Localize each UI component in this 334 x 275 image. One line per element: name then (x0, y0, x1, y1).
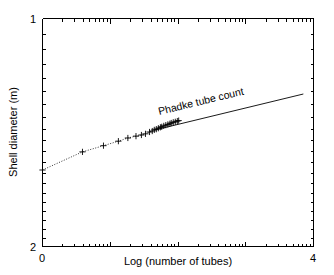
chart-canvas: Phadke tube count 1 2 0 4 Log (number of… (0, 0, 334, 275)
y-axis-bottom-tick-label: 2 (30, 241, 36, 253)
x-axis-ticks (43, 19, 314, 247)
y-axis-title: Shell diameter (m) (7, 87, 19, 177)
y-axis-ticks (43, 19, 314, 247)
series-annotation-label: Phadke tube count (157, 85, 245, 117)
y-axis-top-tick-label: 1 (30, 13, 36, 25)
plot-frame (43, 19, 314, 247)
x-axis-right-tick-label: 4 (310, 252, 316, 264)
x-axis-left-tick-label: 0 (39, 252, 45, 264)
chart-figure: Phadke tube count 1 2 0 4 Log (number of… (0, 0, 334, 275)
data-markers (39, 118, 181, 174)
x-axis-title: Log (number of tubes) (124, 255, 232, 267)
